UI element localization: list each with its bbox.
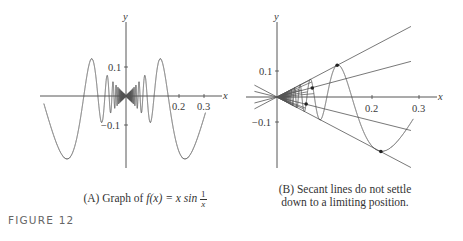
panel-b-caption: (B) Secant lines do not settle down to a… (270, 183, 420, 209)
panel-b-y-axis-label: y (273, 11, 279, 22)
panel-b: 0.2 0.3 0.1 −0.1 x y (246, 11, 443, 168)
marked-point (379, 150, 383, 154)
marked-point (310, 86, 314, 90)
panel-b-ytick-label: 0.1 (259, 66, 272, 77)
panel-b-caption-line2: down to a limiting position. (270, 196, 420, 209)
panel-b-xtick-label: 0.3 (412, 103, 425, 114)
panel-a-caption-func: f(x) = x sin (146, 192, 197, 204)
panel-a-caption: (A) Graph of f(x) = x sin 1x (70, 190, 220, 209)
panel-b-xtick-label: 0.2 (365, 103, 378, 114)
panel-a: 0.2 0.3 0.1 −0.1 x y (40, 11, 228, 168)
panel-a-caption-fraction: 1x (200, 190, 207, 209)
fraction-denominator: x (200, 200, 207, 209)
panel-b-x-axis-label: x (437, 91, 443, 102)
panel-a-xtick-label: 0.2 (172, 101, 185, 112)
panel-a-x-axis-label: x (222, 90, 228, 101)
panel-a-caption-prefix: (A) Graph of (83, 192, 146, 204)
panel-a-y-axis-label: y (122, 11, 128, 22)
marked-point (335, 63, 339, 67)
panel-a-xtick-label: 0.3 (197, 101, 210, 112)
panel-a-ytick-label: −0.1 (101, 120, 120, 131)
marked-point (304, 102, 308, 106)
panel-b-curve (279, 65, 413, 151)
panel-a-ytick-label: 0.1 (108, 62, 121, 73)
panel-b-ytick-label: −0.1 (252, 117, 271, 128)
figure-label: FIGURE 12 (8, 214, 74, 226)
panel-b-caption-line1: (B) Secant lines do not settle (270, 183, 420, 196)
